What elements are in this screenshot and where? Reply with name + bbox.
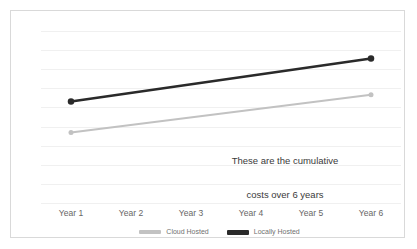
x-axis-tick: Year 1 [41, 206, 101, 220]
chart-annotation: These are the cumulative costs over 6 ye… [197, 143, 373, 201]
x-axis-tick: Year 5 [281, 206, 341, 220]
data-point-marker [68, 98, 75, 105]
legend-label: Cloud Hosted [166, 227, 208, 237]
x-axis-tick: Year 3 [161, 206, 221, 220]
series-line [71, 59, 371, 102]
annotation-line-2: costs over 6 years [246, 189, 323, 200]
legend-label: Locally Hosted [254, 227, 300, 237]
x-axis-tick: Year 4 [221, 206, 281, 220]
data-point-marker [368, 55, 375, 62]
data-point-marker [369, 92, 374, 97]
x-axis-tick: Year 2 [101, 206, 161, 220]
legend-swatch [227, 230, 249, 235]
gridline [41, 203, 401, 204]
legend-item[interactable]: Cloud Hosted [139, 227, 208, 237]
annotation-line-1: These are the cumulative [232, 155, 339, 166]
data-point-marker [69, 130, 74, 135]
series-line [71, 95, 371, 133]
legend-swatch [139, 230, 161, 234]
chart-frame: These are the cumulative costs over 6 ye… [10, 10, 405, 238]
x-axis-tick: Year 6 [341, 206, 401, 220]
chart-legend: Cloud HostedLocally Hosted [11, 227, 417, 237]
x-axis-labels: Year 1Year 2Year 3Year 4Year 5Year 6 [41, 206, 401, 220]
legend-item[interactable]: Locally Hosted [227, 227, 300, 237]
